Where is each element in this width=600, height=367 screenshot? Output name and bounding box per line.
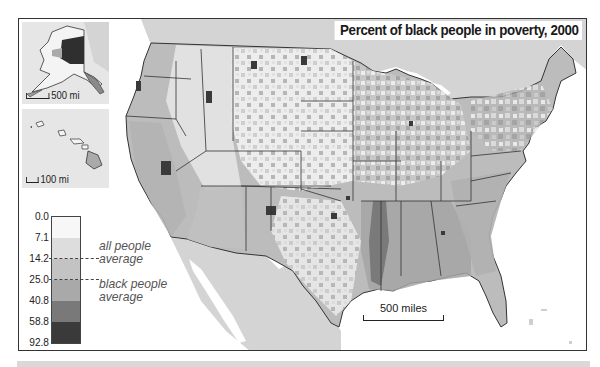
alaska-scale: 500 mi — [26, 89, 80, 101]
legend-tick: 7.1 — [23, 231, 49, 243]
legend-tick: 58.8 — [23, 315, 49, 327]
legend-band-0 — [52, 217, 80, 238]
legend-band-3 — [52, 280, 80, 301]
alaska-scale-label: 500 mi — [51, 89, 79, 101]
legend-tick: 40.8 — [23, 294, 49, 306]
hawaii-inset: 100 mi — [22, 109, 109, 188]
bottom-divider — [17, 361, 590, 367]
marker-label-line: average — [99, 290, 167, 303]
black-people-average-label: black people average — [99, 277, 167, 303]
all-people-average-label: all people average — [99, 239, 151, 265]
legend-band-2 — [52, 259, 80, 280]
legend-tick: 14.2 — [23, 252, 49, 264]
hawaii-scale: 100 mi — [26, 173, 69, 185]
legend-band-5 — [52, 322, 80, 343]
legend-tick: 92.8 — [23, 336, 49, 348]
map-scale-label: 500 miles — [363, 302, 444, 314]
all-people-average-marker — [49, 258, 99, 259]
map-title: Percent of black people in poverty, 2000 — [334, 21, 582, 40]
alaska-scale-bar — [26, 93, 49, 99]
alaska-inset: 500 mi — [22, 22, 109, 104]
region-plains — [231, 48, 353, 191]
map-frame: Percent of black people in poverty, 2000… — [18, 18, 587, 351]
hawaii-scale-label: 100 mi — [40, 173, 68, 185]
legend-tick: 0.0 — [23, 210, 49, 222]
legend-band-4 — [52, 301, 80, 322]
caribbean-islands — [529, 309, 572, 344]
marker-label-line: average — [99, 252, 151, 265]
hawaii-scale-bar — [26, 177, 39, 183]
legend-color-bar — [51, 216, 81, 344]
map-scale-bar — [363, 315, 444, 321]
legend-tick: 25.0 — [23, 273, 49, 285]
legend-band-1 — [52, 238, 80, 259]
map-scale: 500 miles — [363, 302, 444, 321]
legend: 0.0 7.1 14.2 25.0 40.8 58.8 92.8 all peo… — [19, 201, 219, 351]
black-people-average-marker — [49, 279, 99, 280]
